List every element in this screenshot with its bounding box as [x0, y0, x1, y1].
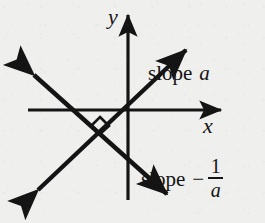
- slope-a-variable: a: [199, 63, 210, 84]
- slope-neg-word: slope: [141, 169, 185, 190]
- y-axis-label: y: [108, 6, 118, 28]
- diagram-svg: [0, 0, 265, 223]
- figure-canvas: y x slope a slope − 1 a: [0, 0, 265, 223]
- x-axis-label: x: [203, 115, 213, 137]
- slope-negative-reciprocal-label: slope − 1 a: [141, 157, 223, 201]
- fraction-one-over-a: 1 a: [208, 156, 223, 200]
- fraction-numerator: 1: [209, 156, 223, 177]
- fraction-denominator: a: [209, 179, 223, 200]
- slope-a-word: slope: [148, 63, 192, 84]
- slope-a-label: slope a: [148, 63, 210, 84]
- minus-sign: −: [192, 169, 204, 190]
